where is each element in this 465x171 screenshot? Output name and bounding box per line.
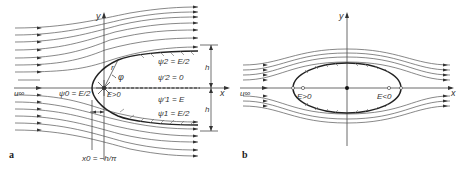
stagnation-point-left [292,87,295,90]
streamlines-b [243,49,450,123]
streamlines-upper-a [15,7,198,80]
psi1-lower-label: ψ1 = E/2 [158,109,190,118]
phi-arc [112,75,116,78]
y-label-b: y [338,11,344,21]
x-label-b: x [450,88,456,98]
psi1-E-label: ψ'1 = E [158,95,185,104]
sink-icon-b [387,86,390,89]
x-label-a: x [219,88,225,98]
h-upper-label: h [205,63,210,72]
panel-label-a: a [9,149,14,160]
y-label-a: y [95,11,101,21]
source-strength-label-b: E>0 [297,92,312,101]
psi0-label: ψ0 = E/2 [59,89,91,98]
panel-label-b: b [242,149,248,160]
stagnation-point-right [400,87,403,90]
psi2-upper-label: ψ2 = E/2 [158,57,190,66]
psi2-zero-label: ψ'2 = 0 [158,73,184,82]
center-point [345,86,349,90]
sink-strength-label-b: E<0 [377,92,392,101]
u-inf-label-a: u∞ [14,89,24,98]
r-label: r [111,63,114,72]
figure-canvas: y x u∞ ψ0 = E/2 E>0 r φ ψ2 = E/2 ψ'2 = 0… [0,0,465,171]
panel-a: y x u∞ ψ0 = E/2 E>0 r φ ψ2 = E/2 ψ'2 = 0… [9,6,230,164]
phi-label: φ [118,72,124,82]
streamlines-lower-a [15,95,198,156]
x0-label: x0 = −h/π [81,154,117,163]
h-lower-label: h [205,105,210,114]
u-inf-label-b: u∞ [240,89,250,98]
panel-b: y x u∞ E>0 E<0 b [240,11,456,160]
source-strength-label-a: E>0 [107,90,121,99]
source-icon-b [301,86,304,89]
